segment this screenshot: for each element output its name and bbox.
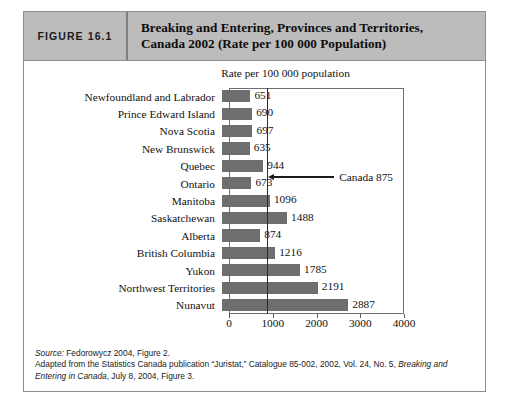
bar-rows: Newfoundland and Labrador651Prince Edwar…: [24, 88, 485, 314]
figure-title-line-1: Breaking and Entering, Provinces and Ter…: [141, 20, 475, 37]
bar: [222, 125, 252, 137]
category-label: Manitoba: [24, 195, 222, 207]
source-note: Source: Fedorowycz 2004, Figure 2. Adapt…: [35, 348, 474, 382]
reference-line-canada: [267, 88, 268, 314]
annotation-leader-line: [274, 176, 334, 177]
table-row: Ontario673: [24, 175, 485, 192]
bar-value-label: 2887: [352, 298, 375, 310]
bar-track: 1488: [222, 210, 485, 227]
source-citation: Fedorowycz 2004, Figure 2.: [64, 348, 170, 358]
source-line-1: Source: Fedorowycz 2004, Figure 2.: [35, 348, 474, 359]
category-label: British Columbia: [24, 247, 222, 259]
source-line-2: Adapted from the Statistics Canada publi…: [35, 359, 474, 382]
bar-track: 1096: [222, 192, 485, 209]
category-label: Ontario: [24, 178, 222, 190]
bar-value-label: 651: [254, 89, 271, 101]
figure-number-label: FIGURE 16.1: [24, 12, 128, 60]
bar: [222, 212, 287, 224]
category-label: Nunavut: [24, 299, 222, 311]
bar: [222, 229, 260, 241]
axis-caption: Rate per 100 000 population: [24, 67, 485, 79]
category-label: Northwest Territories: [24, 282, 222, 294]
category-label: Alberta: [24, 230, 222, 242]
source-label: Source:: [35, 348, 64, 358]
bar-track: 1785: [222, 262, 485, 279]
category-label: Yukon: [24, 265, 222, 277]
figure-title-line-2: Canada 2002 (Rate per 100 000 Population…: [141, 36, 475, 53]
bar-value-label: 1096: [274, 193, 297, 205]
bar: [222, 142, 250, 154]
bar-value-label: 697: [256, 124, 273, 136]
bar: [222, 90, 250, 102]
bar-track: 2191: [222, 279, 485, 296]
bar: [222, 160, 263, 172]
figure-title: Breaking and Entering, Provinces and Ter…: [128, 12, 485, 60]
bar: [222, 282, 318, 294]
category-label: Nova Scotia: [24, 125, 222, 137]
x-axis-tick-label: 0: [226, 317, 232, 329]
category-label: Saskatchewan: [24, 212, 222, 224]
bar-value-label: 690: [256, 106, 273, 118]
figure-frame: FIGURE 16.1 Breaking and Entering, Provi…: [23, 11, 486, 392]
x-axis-tick-label: 4000: [393, 317, 416, 329]
source-adapted-prefix: Adapted from the Statistics Canada publi…: [35, 359, 398, 369]
category-label: New Brunswick: [24, 143, 222, 155]
table-row: Prince Edward Island690: [24, 105, 485, 122]
bar-track: 2887: [222, 297, 485, 314]
category-label: Newfoundland and Labrador: [24, 91, 222, 103]
source-adapted-suffix: , July 8, 2004, Figure 3.: [107, 371, 195, 381]
bar-track: 690: [222, 105, 485, 122]
x-axis-tick-label: 1000: [261, 317, 284, 329]
bar: [222, 108, 252, 120]
bar: [222, 195, 270, 207]
table-row: British Columbia1216: [24, 245, 485, 262]
reference-line-annotation: Canada 875: [268, 171, 393, 183]
table-row: Northwest Territories2191: [24, 279, 485, 296]
bar-track: 1216: [222, 245, 485, 262]
bar: [222, 177, 251, 189]
bar: [222, 299, 348, 311]
bar: [222, 264, 300, 276]
table-row: Nova Scotia697: [24, 123, 485, 140]
x-axis-tick-label: 2000: [305, 317, 328, 329]
bar-track: 635: [222, 140, 485, 157]
table-row: Quebec944: [24, 158, 485, 175]
bar-value-label: 944: [267, 159, 284, 171]
chart-body: Rate per 100 000 population Newfoundland…: [24, 61, 485, 342]
table-row: Yukon1785: [24, 262, 485, 279]
table-row: Newfoundland and Labrador651: [24, 88, 485, 105]
bar-value-label: 1488: [291, 211, 314, 223]
x-axis-tick-label: 3000: [349, 317, 372, 329]
x-axis-tick-labels: 01000200030004000: [24, 317, 485, 333]
bar-track: 697: [222, 123, 485, 140]
table-row: New Brunswick635: [24, 140, 485, 157]
table-row: Saskatchewan1488: [24, 210, 485, 227]
table-row: Nunavut2887: [24, 297, 485, 314]
bar-track: 651: [222, 88, 485, 105]
bar-value-label: 1785: [304, 263, 327, 275]
bar-value-label: 1216: [279, 246, 302, 258]
table-row: Alberta874: [24, 227, 485, 244]
figure-header: FIGURE 16.1 Breaking and Entering, Provi…: [24, 12, 485, 61]
annotation-label: Canada 875: [334, 171, 393, 183]
bar-track: 874: [222, 227, 485, 244]
bar-value-label: 2191: [322, 280, 345, 292]
category-label: Prince Edward Island: [24, 108, 222, 120]
table-row: Manitoba1096: [24, 192, 485, 209]
category-label: Quebec: [24, 160, 222, 172]
